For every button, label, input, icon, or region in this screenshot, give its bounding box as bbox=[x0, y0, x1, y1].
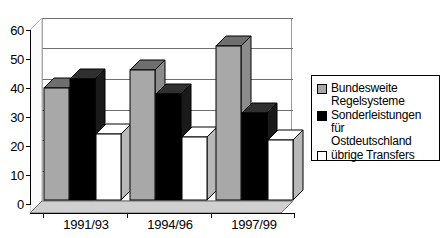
bar-1997-99-uebrige-transfers bbox=[268, 140, 294, 201]
bar-1994-96-bundesweite-regelsysteme bbox=[130, 70, 156, 201]
bar-1991-93-bundesweite-regelsysteme bbox=[44, 88, 70, 201]
legend-item-bundesweite-regelsysteme: Bundesweite Regelsysteme bbox=[317, 82, 434, 108]
y-tick-label-20: 20 bbox=[2, 140, 24, 153]
y-tick-label-40: 40 bbox=[2, 82, 24, 95]
legend-label-line1: Sonderleistungen für bbox=[331, 108, 421, 135]
bar-1997-99-bundesweite-regelsysteme bbox=[216, 46, 242, 201]
y-tick-10 bbox=[26, 175, 31, 176]
y-tick-label-50-holder: 50 bbox=[0, 53, 24, 66]
legend-swatch-black-icon bbox=[317, 111, 327, 121]
y-tick-label-60: 60 bbox=[2, 24, 24, 37]
y-tick-0 bbox=[26, 204, 31, 205]
y-tick-label-50: 50 bbox=[2, 53, 24, 66]
y-tick-60 bbox=[26, 30, 31, 31]
bar-1994-96-sonderleistungen-ostdeutschland bbox=[156, 94, 182, 201]
legend-item-uebrige-transfers: übrige Transfers bbox=[317, 149, 434, 162]
y-tick-label-20-holder: 20 bbox=[0, 140, 24, 153]
x-axis-label-1991-93: 1991/93 bbox=[46, 218, 126, 232]
bar-1997-99-sonderleistungen-ostdeutschland bbox=[242, 113, 268, 201]
legend-label-bundesweite-regelsysteme: Bundesweite Regelsysteme bbox=[331, 82, 405, 108]
y-tick-40 bbox=[26, 88, 31, 89]
legend-label-line2: Regelsysteme bbox=[331, 94, 405, 108]
legend-label-uebrige-transfers: übrige Transfers bbox=[331, 149, 415, 162]
x-tick-start bbox=[43, 213, 44, 218]
bar-1991-93-sonderleistungen-ostdeutschland bbox=[70, 79, 96, 201]
legend-swatch-white-icon bbox=[317, 151, 327, 161]
x-tick-end bbox=[294, 213, 295, 218]
legend-label-sonderleistungen-ostdeutschland: Sonderleistungen für Ostdeutschland bbox=[331, 109, 434, 148]
x-axis-label-1997-99: 1997/99 bbox=[214, 218, 294, 232]
plot-area: 60 50 40 30 20 10 0 1991/93 1994/96 1997… bbox=[0, 0, 310, 238]
y-tick-label-30: 30 bbox=[2, 111, 24, 124]
bar-1991-93-uebrige-transfers bbox=[96, 134, 122, 201]
legend-item-sonderleistungen-ostdeutschland: Sonderleistungen für Ostdeutschland bbox=[317, 109, 434, 148]
y-tick-label-10: 10 bbox=[2, 169, 24, 182]
y-tick-30 bbox=[26, 117, 31, 118]
legend-label-line2: Ostdeutschland bbox=[331, 134, 412, 148]
chart-legend: Bundesweite Regelsysteme Sonderleistunge… bbox=[311, 75, 440, 161]
bar-1994-96-uebrige-transfers bbox=[182, 137, 208, 201]
y-tick-label-0-holder: 0 bbox=[0, 198, 24, 211]
y-tick-50 bbox=[26, 59, 31, 60]
bars-layer bbox=[0, 0, 310, 238]
y-tick-20 bbox=[26, 146, 31, 147]
y-tick-label-60-holder: 60 bbox=[0, 24, 24, 37]
legend-swatch-gray-icon bbox=[317, 84, 327, 94]
y-tick-label-0: 0 bbox=[2, 198, 24, 211]
bar-chart: 60 50 40 30 20 10 0 1991/93 1994/96 1997… bbox=[0, 0, 447, 238]
x-tick-1 bbox=[127, 213, 128, 218]
y-tick-label-30-holder: 30 bbox=[0, 111, 24, 124]
x-axis-label-1994-96: 1994/96 bbox=[130, 218, 210, 232]
legend-label-line1: Bundesweite bbox=[331, 81, 398, 95]
y-tick-label-40-holder: 40 bbox=[0, 82, 24, 95]
y-tick-label-10-holder: 10 bbox=[0, 169, 24, 182]
x-axis-line bbox=[30, 213, 294, 214]
x-tick-2 bbox=[211, 213, 212, 218]
